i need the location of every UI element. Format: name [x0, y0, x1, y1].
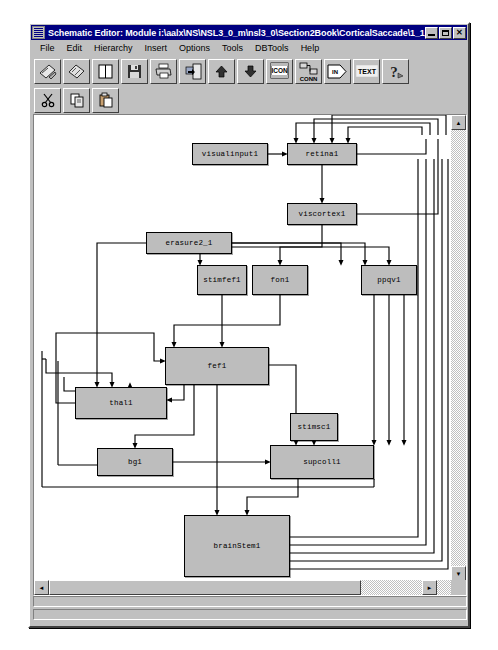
schematic-node-ppqv1[interactable]: ppqv1 [361, 265, 417, 295]
page-button[interactable] [92, 59, 119, 84]
icon-tool-icon: ICON [268, 61, 291, 81]
scroll-down-icon: ▼ [456, 571, 462, 577]
close-icon: ✕ [456, 29, 463, 37]
scroll-left-button[interactable]: ◄ [34, 580, 49, 595]
menu-item-insert[interactable]: Insert [139, 41, 174, 56]
schematic-node-label: stimsc1 [298, 423, 331, 431]
scroll-down-button[interactable]: ▼ [451, 566, 466, 581]
horizontal-scrollbar[interactable]: ◄ ► [34, 580, 452, 595]
export-icon [184, 63, 202, 80]
help-tool-icon: ? [386, 63, 405, 80]
text-tool-icon: TEXT [355, 63, 379, 79]
schematic-window-icon [32, 26, 45, 39]
level-up-icon [213, 64, 230, 79]
schematic-node-label: stimfef1 [203, 276, 241, 284]
menu-item-help[interactable]: Help [295, 41, 326, 56]
open-module-button[interactable] [63, 59, 90, 84]
menu-item-edit[interactable]: Edit [61, 41, 89, 56]
titlebar[interactable]: Schematic Editor: Module i:\aalx\NS\NSL3… [31, 25, 467, 40]
scroll-right-icon: ► [427, 585, 433, 591]
scrollbar-corner [451, 580, 466, 595]
statusbar [33, 596, 467, 622]
schematic-node-bg1[interactable]: bg1 [97, 448, 173, 476]
schematic-node-label: supcoll1 [303, 458, 341, 466]
scroll-left-icon: ◄ [39, 585, 45, 591]
schematic-node-label: fef1 [208, 362, 227, 370]
schematic-node-visualinput1[interactable]: visualinput1 [192, 143, 268, 165]
paste-icon [98, 92, 114, 108]
schematic-node-thal1[interactable]: thal1 [75, 387, 167, 419]
schematic-node-retina1[interactable]: retina1 [287, 143, 357, 165]
scroll-up-icon: ▲ [456, 120, 462, 126]
window-controls: ✕ [425, 27, 466, 39]
connection-tool-button[interactable]: CONN [295, 59, 322, 84]
copy-button[interactable] [63, 88, 90, 113]
print-icon [154, 63, 173, 79]
svg-text:CONN: CONN [300, 76, 318, 82]
save-button[interactable] [121, 59, 148, 84]
scroll-up-button[interactable]: ▲ [451, 115, 466, 130]
schematic-node-fef1[interactable]: fef1 [165, 347, 269, 385]
schematic-canvas-frame: visualinput1retina1viscortex1erasure2_1s… [33, 114, 467, 596]
connection-tool-icon: CONN [297, 61, 320, 82]
menu-item-tools[interactable]: Tools [216, 41, 249, 56]
schematic-node-label: erasure2_1 [165, 239, 212, 247]
menu-item-hierarchy[interactable]: Hierarchy [88, 41, 139, 56]
minimize-button[interactable] [425, 27, 438, 39]
svg-text:?: ? [390, 64, 398, 80]
close-button[interactable]: ✕ [453, 27, 466, 39]
schematic-node-fon1[interactable]: fon1 [252, 265, 308, 295]
input-port-tool-icon: IN [326, 63, 350, 80]
page-icon [97, 63, 114, 80]
schematic-canvas[interactable]: visualinput1retina1viscortex1erasure2_1s… [34, 115, 452, 581]
svg-text:ICON: ICON [271, 67, 288, 74]
status-line-2 [33, 609, 467, 620]
schematic-node-label: brainStem1 [213, 542, 260, 550]
schematic-node-label: thal1 [109, 399, 133, 407]
schematic-node-erasure2_1[interactable]: erasure2_1 [146, 232, 232, 254]
edit-toolbar [30, 86, 468, 114]
schematic-node-supcoll1[interactable]: supcoll1 [270, 445, 374, 479]
menubar: File Edit Hierarchy Insert Options Tools… [30, 41, 468, 56]
menu-item-options[interactable]: Options [173, 41, 216, 56]
copy-icon [69, 92, 85, 108]
open-module-icon [67, 63, 86, 80]
menu-item-file[interactable]: File [34, 41, 61, 56]
schematic-node-viscortex1[interactable]: viscortex1 [287, 203, 357, 225]
schematic-node-label: visualinput1 [202, 150, 258, 158]
schematic-node-label: bg1 [128, 458, 142, 466]
new-schematic-icon [38, 63, 57, 80]
schematic-node-label: viscortex1 [298, 210, 345, 218]
export-button[interactable] [179, 59, 206, 84]
icon-tool-button[interactable]: ICON [266, 59, 293, 84]
maximize-button[interactable] [439, 27, 452, 39]
save-icon [126, 63, 143, 80]
paste-button[interactable] [92, 88, 119, 113]
level-down-icon [242, 64, 259, 79]
level-up-button[interactable] [208, 59, 235, 84]
editor-client-area: visualinput1retina1viscortex1erasure2_1s… [33, 114, 467, 596]
svg-text:TEXT: TEXT [358, 68, 377, 75]
schematic-node-label: retina1 [306, 150, 339, 158]
schematic-node-label: ppqv1 [377, 276, 401, 284]
schematic-editor-window: Schematic Editor: Module i:\aalx\NS\NSL3… [28, 22, 470, 628]
new-schematic-button[interactable] [34, 59, 61, 84]
text-tool-button[interactable]: TEXT [353, 59, 380, 84]
main-toolbar: ICON CONN IN TEXT ? [30, 56, 468, 86]
window-title: Schematic Editor: Module i:\aalx\NS\NSL3… [48, 28, 425, 38]
cut-icon [40, 92, 56, 108]
horizontal-scroll-thumb[interactable] [49, 580, 361, 595]
schematic-node-stimfef1[interactable]: stimfef1 [197, 265, 247, 295]
vertical-scrollbar[interactable]: ▲ ▼ [451, 115, 466, 581]
status-line-1 [33, 596, 467, 607]
svg-text:IN: IN [332, 69, 338, 75]
print-button[interactable] [150, 59, 177, 84]
scroll-right-button[interactable]: ► [422, 580, 437, 595]
schematic-node-stimsc1[interactable]: stimsc1 [290, 413, 338, 441]
input-port-tool-button[interactable]: IN [324, 59, 351, 84]
help-tool-button[interactable]: ? [382, 59, 409, 84]
menu-item-dbtools[interactable]: DBTools [249, 41, 295, 56]
schematic-node-brainStem1[interactable]: brainStem1 [184, 515, 290, 577]
level-down-button[interactable] [237, 59, 264, 84]
cut-button[interactable] [34, 88, 61, 113]
